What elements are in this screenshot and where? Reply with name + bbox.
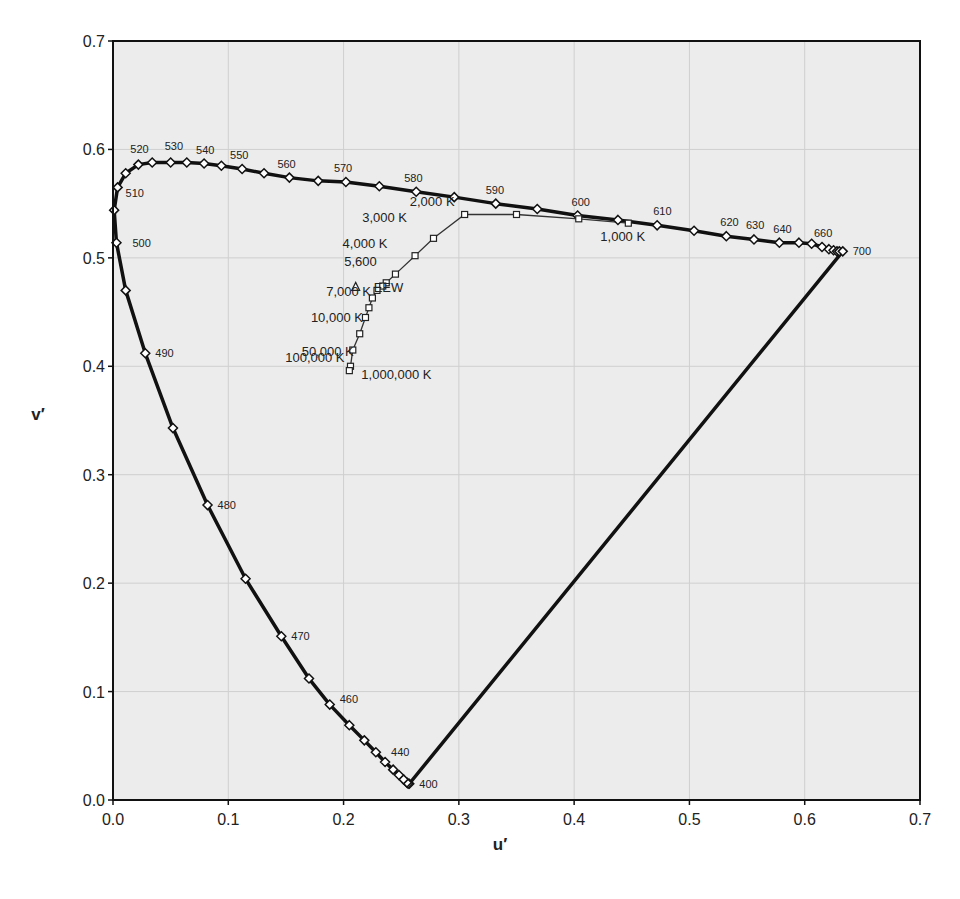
wavelength-label: 630: [746, 219, 764, 231]
x-tick-label: 0.3: [448, 811, 470, 828]
cie-uv-chromaticity-chart: 4004404604704804905005105205305405505605…: [0, 0, 960, 899]
wavelength-label: 530: [165, 140, 183, 152]
x-tick-label: 0.0: [102, 811, 124, 828]
wavelength-label: 570: [334, 162, 352, 174]
wavelength-label: 540: [196, 144, 214, 156]
wavelength-label: 560: [277, 158, 295, 170]
color-temperature-label: 2,000 K: [410, 194, 455, 209]
square-marker: [625, 220, 631, 226]
wavelength-label: 440: [391, 746, 409, 758]
y-tick-label: 0.5: [83, 250, 105, 267]
wavelength-label: 660: [814, 227, 832, 239]
wavelength-label: 510: [126, 187, 144, 199]
y-tick-label: 0.7: [83, 33, 105, 50]
y-tick-label: 0.4: [83, 358, 105, 375]
y-tick-label: 0.0: [83, 792, 105, 809]
wavelength-label: 550: [230, 149, 248, 161]
color-temperature-label: 3,000 K: [362, 210, 407, 225]
square-marker: [576, 216, 582, 222]
wavelength-label: 590: [486, 184, 504, 196]
x-tick-label: 0.2: [332, 811, 354, 828]
y-tick-label: 0.6: [83, 141, 105, 158]
wavelength-label: 620: [720, 216, 738, 228]
x-tick-label: 0.4: [563, 811, 585, 828]
wavelength-label: 470: [291, 630, 309, 642]
x-tick-label: 0.5: [678, 811, 700, 828]
x-tick-label: 0.1: [217, 811, 239, 828]
square-marker: [366, 305, 372, 311]
y-axis-label: v′: [31, 405, 45, 424]
wavelength-label: 490: [155, 347, 173, 359]
wavelength-label: 500: [132, 237, 150, 249]
y-tick-label: 0.1: [83, 684, 105, 701]
x-tick-label: 0.7: [909, 811, 931, 828]
wavelength-label: 700: [853, 245, 871, 257]
wavelength-label: 610: [653, 205, 671, 217]
square-marker: [462, 211, 468, 217]
square-marker: [412, 253, 418, 259]
wavelength-label: 640: [773, 223, 791, 235]
color-temperature-label: 5,600: [344, 254, 377, 269]
x-tick-label: 0.6: [794, 811, 816, 828]
square-marker: [392, 271, 398, 277]
square-marker: [346, 368, 352, 374]
color-temperature-label: 1,000,000 K: [361, 367, 431, 382]
wavelength-label: 480: [218, 499, 236, 511]
wavelength-label: 600: [572, 196, 590, 208]
color-temperature-label: 4,000 K: [343, 236, 388, 251]
square-marker: [430, 235, 436, 241]
x-axis-label: u′: [493, 835, 507, 854]
color-temperature-label: 7,000 K: [326, 284, 371, 299]
wavelength-label: 520: [130, 143, 148, 155]
wavelength-label: 460: [340, 693, 358, 705]
square-marker: [362, 314, 368, 320]
wavelength-label: 580: [404, 172, 422, 184]
square-marker: [357, 331, 363, 337]
wavelength-label: 400: [419, 778, 437, 790]
y-tick-label: 0.2: [83, 575, 105, 592]
y-tick-label: 0.3: [83, 467, 105, 484]
color-temperature-label: 1,000 K: [600, 229, 645, 244]
color-temperature-label: 10,000 K: [311, 310, 363, 325]
color-temperature-label: 100,000 K: [285, 350, 345, 365]
eew-label: EEW: [374, 280, 404, 295]
square-marker: [514, 211, 520, 217]
